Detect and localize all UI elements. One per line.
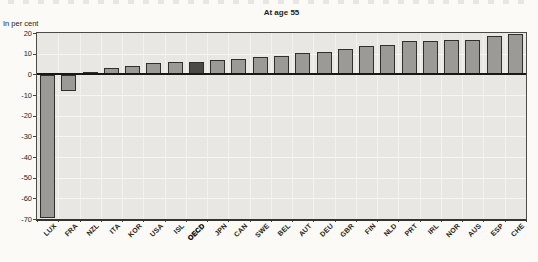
bar-GBR [338, 49, 353, 76]
x-axis-tick [58, 219, 59, 222]
bar-FRA [61, 75, 76, 91]
scan-artifact [8, 0, 530, 4]
y-tick-label: -30 [2, 132, 32, 141]
x-tick-label-BEL: BEL [276, 222, 291, 237]
v-gridline [483, 33, 484, 219]
x-tick-label-AUT: AUT [297, 222, 313, 238]
x-axis-tick [207, 219, 208, 222]
x-tick-label-CHE: CHE [509, 222, 525, 238]
x-axis-tick [313, 219, 314, 222]
v-gridline [143, 33, 144, 219]
zero-line [37, 73, 526, 75]
x-tick-label-KOR: KOR [126, 222, 142, 238]
v-gridline [335, 33, 336, 219]
h-gridline [37, 95, 526, 96]
x-tick-label-AUS: AUS [467, 222, 483, 238]
y-axis-tick [33, 116, 36, 117]
v-gridline [165, 33, 166, 219]
y-axis-unit-label: In per cent [3, 19, 38, 28]
plot-area [37, 33, 526, 219]
x-tick-label-DEU: DEU [318, 222, 334, 238]
x-axis-tick [398, 219, 399, 222]
x-axis-tick [526, 219, 527, 222]
bar-AUS [465, 40, 480, 75]
y-tick-label: 20 [2, 29, 32, 38]
v-gridline [186, 33, 187, 219]
x-tick-label-CAN: CAN [233, 222, 249, 238]
bar-PRT [402, 41, 417, 75]
x-tick-label-PRT: PRT [404, 222, 419, 237]
x-tick-label-NZL: NZL [85, 222, 100, 237]
x-axis-tick [441, 219, 442, 222]
h-gridline [37, 157, 526, 158]
x-axis-tick [165, 219, 166, 222]
y-axis-tick [33, 198, 36, 199]
x-axis-tick [122, 219, 123, 222]
v-gridline [292, 33, 293, 219]
bar-FIN [359, 46, 374, 75]
bar-ESP [487, 36, 502, 75]
x-axis-tick [420, 219, 421, 222]
x-axis-tick [37, 219, 38, 222]
v-gridline [462, 33, 463, 219]
x-axis-tick [292, 219, 293, 222]
v-gridline [207, 33, 208, 219]
bar-AUT [295, 53, 310, 76]
x-axis-tick [186, 219, 187, 222]
v-gridline [58, 33, 59, 219]
y-tick-label: -60 [2, 194, 32, 203]
v-gridline [122, 33, 123, 219]
y-axis-tick [33, 74, 36, 75]
x-axis-tick [271, 219, 272, 222]
chart-figure: At age 55 In per cent 20100-10-20-30-40-… [0, 0, 538, 262]
y-tick-label: 10 [2, 49, 32, 58]
y-tick-label: 0 [2, 70, 32, 79]
v-gridline [228, 33, 229, 219]
y-tick-label: -50 [2, 173, 32, 182]
x-tick-label-ESP: ESP [489, 222, 504, 237]
x-tick-label-GBR: GBR [339, 222, 355, 238]
x-tick-label-USA: USA [148, 222, 164, 238]
bar-NLD [380, 45, 395, 75]
v-gridline [80, 33, 81, 219]
x-tick-label-OECD: OECD [187, 222, 207, 242]
y-tick-label: -10 [2, 91, 32, 100]
v-gridline [250, 33, 251, 219]
bar-NOR [444, 40, 459, 75]
x-axis-tick [483, 219, 484, 222]
x-axis-tick [250, 219, 251, 222]
x-tick-label-ISL: ISL [172, 222, 185, 235]
bar-DEU [317, 52, 332, 76]
y-tick-label: -70 [2, 215, 32, 224]
x-tick-label-FIN: FIN [363, 222, 376, 235]
x-axis-tick [377, 219, 378, 222]
h-gridline [37, 116, 526, 117]
h-gridline [37, 178, 526, 179]
x-tick-label-IRL: IRL [427, 222, 440, 235]
v-gridline [313, 33, 314, 219]
x-tick-label-JPN: JPN [213, 222, 228, 237]
x-axis-tick [80, 219, 81, 222]
y-axis-tick [33, 54, 36, 55]
x-tick-label-ITA: ITA [108, 222, 121, 235]
bar-IRL [423, 41, 438, 75]
x-tick-label-FRA: FRA [63, 222, 79, 238]
x-axis-tick [228, 219, 229, 222]
v-gridline [356, 33, 357, 219]
chart-title: At age 55 [37, 8, 526, 17]
x-tick-label-NLD: NLD [382, 222, 398, 238]
bar-CHE [508, 34, 523, 75]
x-axis-tick [335, 219, 336, 222]
y-axis-tick [33, 33, 36, 34]
h-gridline [37, 198, 526, 199]
x-axis-tick [143, 219, 144, 222]
v-gridline [420, 33, 421, 219]
x-axis-tick [505, 219, 506, 222]
v-gridline [505, 33, 506, 219]
v-gridline [271, 33, 272, 219]
y-axis-tick [33, 178, 36, 179]
v-gridline [441, 33, 442, 219]
h-gridline [37, 136, 526, 137]
x-axis-tick [101, 219, 102, 222]
v-gridline [398, 33, 399, 219]
